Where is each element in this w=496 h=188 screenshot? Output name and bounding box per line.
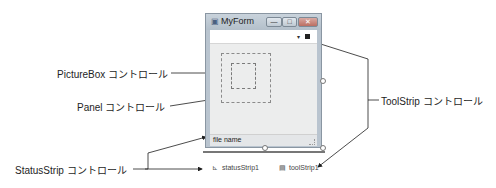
form-client-area[interactable]: ▾ file name <box>210 30 317 146</box>
component-tray-divider <box>203 151 325 153</box>
statusstrip-icon: ⊾ <box>212 164 218 172</box>
toolstrip[interactable]: ▾ <box>210 30 317 44</box>
title-bar[interactable]: ▣ MyForm — □ ✕ <box>206 14 321 30</box>
chevron-down-icon[interactable]: ▾ <box>297 33 300 40</box>
picturebox-control[interactable] <box>231 63 256 89</box>
resize-grip-icon[interactable] <box>309 139 315 145</box>
form-icon: ▣ <box>211 18 219 26</box>
form-window[interactable]: ▣ MyForm — □ ✕ ▾ file name <box>205 13 322 148</box>
tray-item-toolstrip1[interactable]: toolStrip1 <box>289 164 319 171</box>
resize-handle-right[interactable] <box>320 78 326 84</box>
toolstrip-icon: ▤ <box>279 164 286 172</box>
tray-item-statusstrip1[interactable]: statusStrip1 <box>222 164 259 171</box>
square-icon[interactable] <box>305 34 310 39</box>
minimize-button[interactable]: — <box>266 17 282 27</box>
callout-picturebox: PictureBox コントロール <box>57 66 168 81</box>
callout-statusstrip: StatusStrip コントロール <box>15 162 127 177</box>
form-title: MyForm <box>221 16 254 26</box>
callout-toolstrip: ToolStrip コントロール <box>381 93 483 108</box>
close-button[interactable]: ✕ <box>298 17 318 27</box>
callout-panel: Panel コントロール <box>77 99 165 114</box>
status-label: file name <box>213 136 241 143</box>
maximize-button[interactable]: □ <box>282 17 297 27</box>
